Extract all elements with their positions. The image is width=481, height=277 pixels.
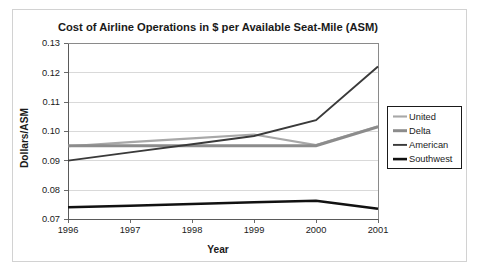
- y-tick-label: 0.12: [42, 68, 60, 78]
- x-tick-label: 2000: [306, 225, 327, 235]
- legend-label: United: [409, 112, 436, 122]
- x-tick-label: 1999: [244, 225, 265, 235]
- chart-legend: UnitedDeltaAmericanSouthwest: [388, 107, 462, 169]
- chart-title: Cost of Airline Operations in $ per Avai…: [58, 21, 378, 33]
- x-tick-label: 2001: [368, 225, 389, 235]
- axis-lines: [64, 43, 379, 223]
- y-tick-label: 0.09: [42, 156, 60, 166]
- y-tick-label: 0.07: [42, 214, 60, 224]
- x-tick-label: 1996: [58, 225, 79, 235]
- series-line-southwest: [68, 201, 378, 209]
- y-axis-title: Dollars/ASM: [19, 108, 30, 168]
- legend-label: American: [409, 140, 448, 150]
- x-axis-tick-labels: 199619971998199920002001: [58, 225, 389, 235]
- x-axis-title: Year: [207, 244, 229, 255]
- y-tick-label: 0.11: [43, 97, 60, 107]
- chart-figure: Cost of Airline Operations in $ per Avai…: [12, 9, 467, 262]
- y-tick-label: 0.08: [42, 185, 60, 195]
- y-tick-label: 0.10: [42, 126, 60, 136]
- legend-label: Delta: [409, 126, 432, 136]
- y-axis-tick-labels: 0.070.080.090.100.110.120.13: [42, 38, 60, 224]
- gridlines: [68, 44, 378, 220]
- legend-label: Southwest: [409, 154, 453, 164]
- line-chart: Cost of Airline Operations in $ per Avai…: [13, 10, 466, 261]
- series-line-united: [68, 126, 378, 146]
- y-tick-label: 0.13: [42, 38, 60, 48]
- x-tick-label: 1997: [120, 225, 141, 235]
- data-series-group: [68, 66, 378, 208]
- x-tick-label: 1998: [182, 225, 203, 235]
